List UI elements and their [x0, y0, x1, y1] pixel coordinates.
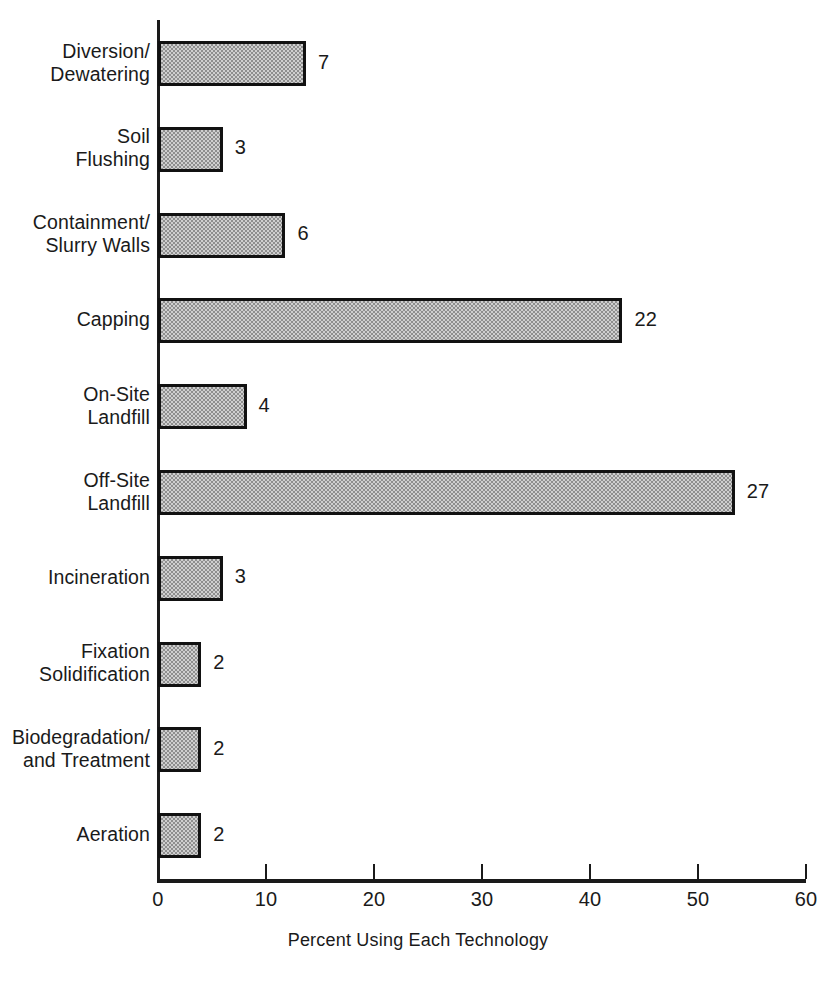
bar-on-site-landfill[interactable]: [158, 384, 247, 429]
bar-soil-flushing[interactable]: [158, 127, 223, 172]
bar-aeration[interactable]: [158, 813, 201, 858]
x-tick-10: [265, 864, 267, 879]
bar-capping[interactable]: [158, 298, 622, 343]
x-tick-label-20: 20: [363, 888, 386, 911]
bar-value-diversion-dewatering: 7: [318, 51, 329, 74]
category-label-capping: Capping: [77, 308, 150, 331]
bar-value-incineration: 3: [235, 565, 246, 588]
x-tick-label-0: 0: [152, 888, 163, 911]
bar-off-site-landfill[interactable]: [158, 470, 735, 515]
bar-value-soil-flushing: 3: [235, 136, 246, 159]
bar-value-aeration: 2: [213, 823, 224, 846]
x-tick-0: [157, 864, 159, 879]
category-label-fixation-solidification: Fixation Solidification: [39, 640, 150, 686]
x-tick-label-60: 60: [795, 888, 818, 911]
x-tick-30: [481, 864, 483, 879]
bar-value-fixation-solidification: 2: [213, 651, 224, 674]
bar-diversion-dewatering[interactable]: [158, 41, 306, 86]
x-tick-20: [373, 864, 375, 879]
bar-containment-slurry-walls[interactable]: [158, 213, 285, 258]
x-tick-label-50: 50: [687, 888, 710, 911]
x-axis-title: Percent Using Each Technology: [0, 930, 836, 951]
bar-fixation-solidification[interactable]: [158, 642, 201, 687]
x-tick-label-40: 40: [579, 888, 602, 911]
category-label-biodegradation-and-treatment: Biodegradation/ and Treatment: [12, 726, 150, 772]
bar-biodegradation-and-treatment[interactable]: [158, 727, 201, 772]
bar-chart-figure: 0102030405060 Diversion/ Dewatering7Soil…: [0, 0, 836, 983]
bar-value-on-site-landfill: 4: [259, 394, 270, 417]
x-tick-40: [589, 864, 591, 879]
category-label-soil-flushing: Soil Flushing: [75, 125, 150, 171]
bar-value-off-site-landfill: 27: [747, 480, 770, 503]
category-label-containment-slurry-walls: Containment/ Slurry Walls: [33, 211, 150, 257]
x-tick-60: [805, 864, 807, 879]
category-label-on-site-landfill: On-Site Landfill: [83, 383, 150, 429]
x-tick-label-30: 30: [471, 888, 494, 911]
plot-area: 0102030405060 Diversion/ Dewatering7Soil…: [0, 0, 836, 900]
x-tick-50: [697, 864, 699, 879]
category-label-aeration: Aeration: [77, 823, 150, 846]
bar-incineration[interactable]: [158, 556, 223, 601]
bar-value-biodegradation-and-treatment: 2: [213, 737, 224, 760]
bar-value-containment-slurry-walls: 6: [297, 222, 308, 245]
bar-value-capping: 22: [634, 308, 657, 331]
category-label-diversion-dewatering: Diversion/ Dewatering: [50, 40, 150, 86]
category-label-incineration: Incineration: [48, 566, 150, 589]
x-tick-label-10: 10: [255, 888, 278, 911]
x-axis-line: [157, 879, 806, 883]
category-label-off-site-landfill: Off-Site Landfill: [83, 469, 150, 515]
